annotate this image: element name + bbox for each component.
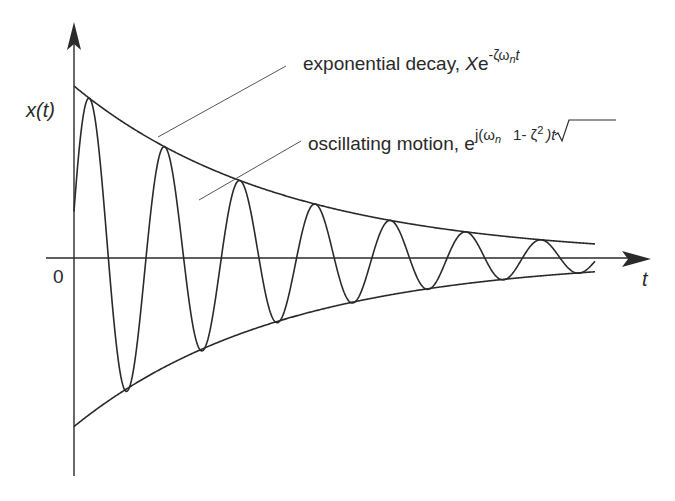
decay-exponent-t: t (516, 47, 521, 63)
t-axis-label: t (642, 268, 649, 290)
y-axis-label: x(t) (25, 99, 55, 121)
oscillation-exponent-tail: )t (544, 126, 556, 143)
oscillation-sqrt-content: 1- ζ (513, 126, 538, 143)
oscillation-e-symbol: e (464, 133, 475, 154)
oscillation-sqrt-power: 2 (537, 124, 543, 136)
decay-annotation-text: exponential decay, (303, 53, 465, 74)
upper-envelope-curve (74, 86, 595, 244)
decay-e-symbol: e (478, 53, 489, 74)
oscillation-exponent-head: j(ω (474, 126, 495, 143)
decay-leader-line (158, 66, 286, 137)
y-axis-label-text: x(t) (25, 99, 55, 121)
decay-exponent: -ζω (489, 47, 510, 63)
t-axis-arrow-icon (622, 251, 651, 267)
oscillation-annotation-text: oscillating motion, (308, 133, 464, 154)
lower-envelope-curve (74, 272, 595, 427)
decay-annotation: exponential decay, Xe-ζωnt (303, 47, 521, 74)
origin-label: 0 (53, 266, 64, 287)
sqrt-radical-icon (555, 120, 616, 141)
oscillation-exponent-subscript: n (495, 133, 501, 145)
damped-oscillation-diagram: x(t) 0 t exponential decay, Xe-ζωnt osci… (0, 0, 675, 501)
oscillation-annotation: oscillating motion, ej(ωn1- ζ2)t (308, 124, 556, 154)
